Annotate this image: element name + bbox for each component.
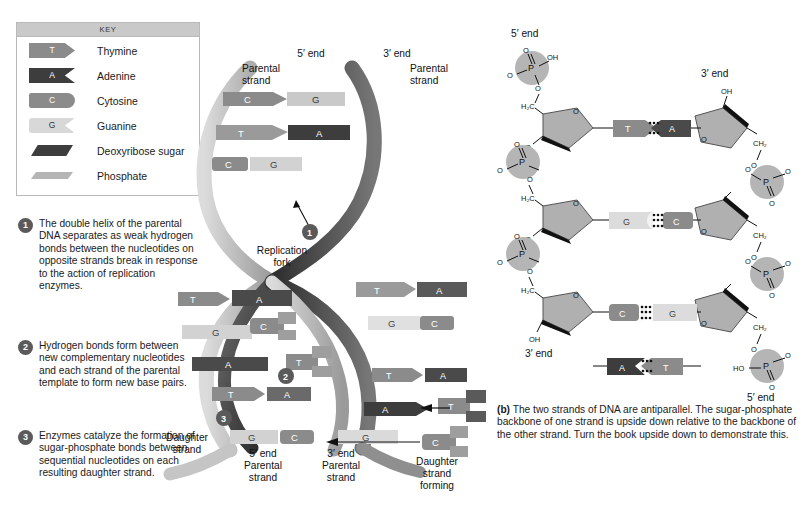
panel-b-caption-tag: (b) xyxy=(497,404,510,415)
svg-text:O: O xyxy=(751,345,757,354)
label-3prime-top: 3′ end xyxy=(372,48,422,60)
phosphate-right-3: P O O HO xyxy=(733,349,791,392)
hydroxyl-top-right: OH xyxy=(721,87,732,96)
svg-text:C: C xyxy=(244,94,251,105)
label-replication-fork: Replication fork xyxy=(240,245,324,269)
label-b-5prime-bottomright: 5′ end xyxy=(747,392,806,404)
methylene-right-1: CH₂ xyxy=(753,139,767,148)
svg-text:O: O xyxy=(535,84,541,93)
phosphate-left-3: P O O O xyxy=(497,232,540,276)
methylene-left-3: H₂C xyxy=(521,286,535,295)
sugar-left-2: O O xyxy=(525,199,593,244)
adenine-glyph: A xyxy=(29,68,75,83)
methylene-left-1: H₂C xyxy=(521,102,535,111)
svg-text:C: C xyxy=(432,437,439,448)
svg-text:OH: OH xyxy=(547,53,558,62)
svg-text:A: A xyxy=(440,371,446,381)
phosphate-right-2: P O O O xyxy=(745,257,791,300)
methylene-right-3: CH₂ xyxy=(753,323,767,332)
dna-replication-figure: KEY T Thymine A Adenine C Cytosine G Gua… xyxy=(0,0,806,507)
sugar-shape-icon xyxy=(31,145,73,156)
thymine-glyph: T xyxy=(29,43,75,58)
svg-text:G: G xyxy=(669,309,676,319)
label-daughter-strand-forming: Daughter strand forming xyxy=(402,456,472,492)
guanine-glyph: G xyxy=(29,118,75,133)
svg-text:O: O xyxy=(751,253,757,262)
svg-text:C: C xyxy=(260,321,267,332)
svg-text:A: A xyxy=(284,390,290,400)
svg-text:O: O xyxy=(785,259,791,268)
panel-b-caption-text: The two strands of DNA are antiparallel.… xyxy=(497,404,796,440)
svg-text:O: O xyxy=(785,351,791,360)
free-nucleotide-C-right: C xyxy=(422,426,468,457)
svg-text:O: O xyxy=(527,175,533,184)
step-3-number: 3 xyxy=(18,430,33,445)
sugar-left-3: O OH xyxy=(529,291,593,344)
svg-text:G: G xyxy=(212,327,219,338)
methylene-left-2: H₂C xyxy=(521,194,535,203)
base-pair-row-2: G C xyxy=(593,212,701,229)
svg-text:O: O xyxy=(527,267,533,276)
svg-text:O: O xyxy=(769,383,775,392)
svg-text:P: P xyxy=(763,177,769,187)
top-base-pair-row-2: T A xyxy=(216,125,350,140)
sugar-right-3: O CH₂ xyxy=(695,284,767,332)
methylene-right-2: CH₂ xyxy=(753,231,767,240)
label-b-3prime-bottomleft: 3′ end xyxy=(525,348,585,360)
svg-text:P: P xyxy=(519,157,525,167)
svg-text:G: G xyxy=(248,432,255,443)
svg-text:T: T xyxy=(625,124,631,134)
svg-text:T: T xyxy=(296,358,302,368)
panel-b-caption: (b) The two strands of DNA are antiparal… xyxy=(497,404,797,441)
label-5prime-parental-bottom: 5′ end Parental strand xyxy=(230,448,296,484)
svg-text:T: T xyxy=(448,402,454,412)
right-branch-pair-3: T A xyxy=(372,368,467,382)
phosphate-right-1: P O O O xyxy=(745,165,791,208)
svg-text:1: 1 xyxy=(307,228,312,238)
svg-text:T: T xyxy=(190,295,196,305)
svg-text:C: C xyxy=(431,318,438,329)
hydroxyl-bottom-right: HO xyxy=(733,364,744,373)
phosphate-shape-icon xyxy=(31,172,73,179)
svg-text:P: P xyxy=(519,249,525,259)
svg-text:3: 3 xyxy=(221,414,226,424)
svg-text:T: T xyxy=(238,128,244,139)
guanine-swatch: G xyxy=(29,118,83,133)
svg-text:G: G xyxy=(312,94,319,105)
free-nucleotide-T-right: T xyxy=(438,390,486,422)
sugar-right-2: O CH₂ xyxy=(695,192,767,240)
thymine-swatch: T xyxy=(29,43,83,58)
svg-text:P: P xyxy=(763,361,769,371)
cytosine-glyph: C xyxy=(29,93,75,108)
svg-text:A: A xyxy=(316,128,323,139)
right-branch-pair-4: A xyxy=(364,402,428,416)
svg-text:O: O xyxy=(573,107,579,116)
svg-text:O: O xyxy=(769,291,775,300)
svg-text:O: O xyxy=(523,46,529,55)
svg-text:G: G xyxy=(362,432,369,443)
svg-text:T: T xyxy=(386,371,392,381)
svg-text:A: A xyxy=(225,359,232,370)
phosphate-swatch xyxy=(29,168,83,183)
svg-text:O: O xyxy=(745,165,751,174)
left-branch-pair-3: A xyxy=(192,357,268,371)
hydroxyl-bottom-left: OH xyxy=(529,335,540,344)
dna-helix-illustration: C G T A C G xyxy=(120,30,490,500)
step-1-number: 1 xyxy=(18,218,33,233)
svg-text:O: O xyxy=(507,71,513,80)
svg-text:P: P xyxy=(763,269,769,279)
svg-text:A: A xyxy=(619,363,625,373)
sugar-left-1: O O xyxy=(525,107,593,152)
deoxyribose-swatch xyxy=(29,143,83,158)
label-3prime-parental-bottom: 3′ end Parental strand xyxy=(308,448,374,484)
phosphate-left-2: P O O O xyxy=(497,140,540,184)
base-pair-row-1: T A xyxy=(593,120,701,137)
svg-text:O: O xyxy=(497,166,503,175)
svg-text:G: G xyxy=(270,159,277,170)
svg-text:O: O xyxy=(745,257,751,266)
svg-text:T: T xyxy=(374,285,380,296)
svg-text:O: O xyxy=(514,232,520,241)
fork-arrowhead xyxy=(293,200,300,208)
panel-b-svg: P O O OH O H₂C O xyxy=(495,30,800,430)
phosphate-left-1: P O O OH O xyxy=(507,46,558,93)
